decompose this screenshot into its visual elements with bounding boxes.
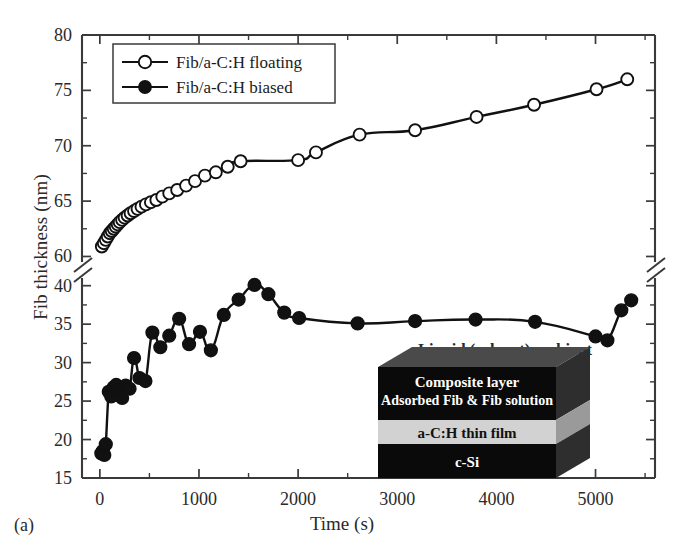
data-point (621, 73, 633, 85)
legend-marker-open-circle-icon (139, 56, 151, 68)
data-point (99, 438, 112, 451)
data-point (248, 279, 261, 292)
data-point (235, 155, 247, 167)
data-point (262, 288, 275, 301)
y-tick-label: 35 (54, 314, 72, 334)
data-point (292, 154, 304, 166)
data-point (354, 129, 366, 141)
x-tick-label: 1000 (181, 489, 217, 509)
data-point (625, 294, 638, 307)
legend-label-biased: Fib/a-C:H biased (176, 78, 293, 97)
data-point (173, 312, 186, 325)
data-point (409, 124, 421, 136)
data-point (293, 312, 306, 325)
x-tick-label: 4000 (478, 489, 514, 509)
data-point (232, 293, 245, 306)
composite-layer-line2: Adsorbed Fib & Fib solution (381, 393, 553, 408)
data-point (139, 375, 152, 388)
c-si-substrate-line1: c-Si (455, 454, 479, 470)
data-point (409, 315, 422, 328)
chart-legend: Fib/a-C:H floating Fib/a-C:H biased (113, 44, 335, 103)
data-point (123, 382, 136, 395)
y-tick-label: 75 (54, 80, 72, 100)
x-tick-label: 3000 (379, 489, 415, 509)
data-point (529, 315, 542, 328)
legend-label-floating: Fib/a-C:H floating (176, 53, 303, 72)
data-point (146, 326, 159, 339)
y-tick-label: 60 (54, 246, 72, 266)
data-point (128, 352, 141, 365)
chart-canvas: 0100020003000400050001520253035406065707… (0, 0, 684, 557)
data-point (194, 325, 207, 338)
y-tick-label: 40 (54, 276, 72, 296)
data-point (210, 166, 222, 178)
figure-root: Fib thickness (nm) Time (s) (a) 01000200… (0, 0, 684, 557)
data-point (183, 338, 196, 351)
data-point (278, 306, 291, 319)
data-point (615, 304, 628, 317)
y-tick-label: 20 (54, 430, 72, 450)
x-tick-label: 0 (95, 489, 104, 509)
data-point (310, 146, 322, 158)
data-point (163, 329, 176, 342)
y-tick-label: 80 (54, 25, 72, 45)
a-c-h-thin-film-line1: a-C:H thin film (417, 425, 517, 441)
y-tick-label: 15 (54, 468, 72, 488)
x-tick-label: 5000 (578, 489, 614, 509)
data-point (591, 83, 603, 95)
composite-layer-top-face (378, 347, 590, 367)
data-point (351, 317, 364, 330)
inset-schematic: Liquid (solvent) ambient Composite layer… (378, 340, 593, 478)
y-tick-label: 65 (54, 191, 72, 211)
data-point (222, 161, 234, 173)
data-point (154, 341, 167, 354)
legend-marker-filled-circle-icon (139, 81, 151, 93)
data-point (469, 313, 482, 326)
y-tick-label: 30 (54, 353, 72, 373)
y-tick-label: 25 (54, 391, 72, 411)
data-point (601, 334, 614, 347)
data-point (471, 111, 483, 123)
composite-layer-line1: Composite layer (415, 374, 520, 390)
data-point (204, 344, 217, 357)
data-point (528, 99, 540, 111)
data-point (217, 309, 230, 322)
y-tick-label: 70 (54, 136, 72, 156)
x-tick-label: 2000 (280, 489, 316, 509)
